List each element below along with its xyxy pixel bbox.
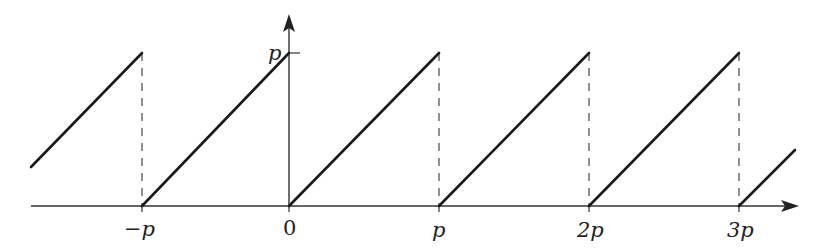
segment-1 [142,53,289,206]
x-ticks [142,206,739,212]
discontinuity-lines [142,53,739,206]
label-y-p: p [268,41,281,65]
y-axis [283,14,300,206]
label-3p: 3p [727,218,754,242]
sawtooth-segments [31,53,795,206]
segment-2 [289,53,439,206]
sawtooth-diagram: p −p 0 p 2p 3p [0,0,827,251]
segment-4 [589,53,739,206]
label-zero: 0 [283,216,296,240]
segment-3 [439,53,589,206]
label-p: p [432,218,445,242]
segment-5 [739,150,795,206]
segment-0 [31,53,142,167]
label-2p: 2p [576,218,604,242]
label-neg-p: −p [124,217,155,241]
